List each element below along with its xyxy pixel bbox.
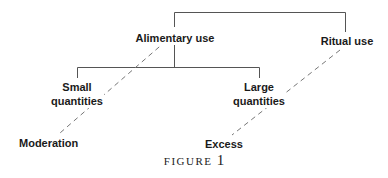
small-quantities-line2: quantities — [51, 94, 103, 108]
root-bracket — [175, 13, 346, 33]
node-ritual-use: Ritual use — [320, 34, 375, 48]
figure-caption: FIGURE 1 — [164, 152, 224, 169]
node-excess: Excess — [204, 137, 244, 151]
node-small-quantities: Small quantities — [50, 80, 104, 108]
quantities-bracket — [78, 68, 260, 79]
node-alimentary-use: Alimentary use — [135, 31, 216, 45]
small-quantities-line1: Small — [51, 80, 103, 94]
large-quantities-line2: quantities — [233, 94, 285, 108]
caption-word: FIGURE — [164, 155, 213, 167]
large-quantities-line1: Large — [233, 80, 285, 94]
node-large-quantities: Large quantities — [232, 80, 286, 108]
node-moderation: Moderation — [18, 136, 79, 150]
caption-number: 1 — [217, 152, 225, 168]
